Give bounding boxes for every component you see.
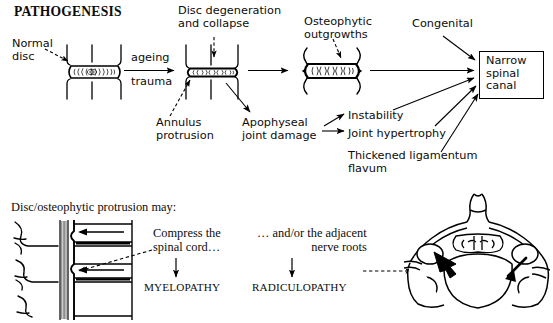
label-annulus-protrusion: Annulus protrusion (156, 117, 214, 142)
pathogenesis-figure: PATHOGENESIS (0, 0, 553, 323)
label-nerve-roots: … and/or the adjacent nerve roots (257, 227, 367, 255)
label-disc-degeneration: Disc degeneration and collapse (178, 5, 281, 30)
label-narrow-spinal-canal: Narrow spinal canal (486, 55, 526, 93)
axial-cervical-vertebra-illustration (404, 192, 550, 323)
label-thickened-ligamentum-flavum: Thickened ligamentum flavum (348, 150, 477, 175)
label-ageing: ageing (131, 52, 170, 65)
degenerate-disc-illustration (180, 44, 246, 100)
label-normal-disc: Normal disc (12, 38, 53, 63)
lower-heading: Disc/osteophytic protrusion may: (11, 201, 176, 215)
label-apophyseal-joint-damage: Apophyseal joint damage (242, 117, 317, 142)
label-myelopathy: MYELOPATHY (144, 281, 220, 294)
label-trauma: trauma (131, 76, 172, 89)
osteophytic-disc-illustration (292, 42, 372, 102)
label-osteophytic-outgrowths: Osteophytic outgrowths (304, 16, 372, 41)
label-radiculopathy: RADICULOPATHY (252, 281, 347, 294)
sagittal-spine-illustration (12, 220, 140, 320)
label-instability: Instability (348, 110, 403, 123)
normal-disc-illustration (62, 44, 128, 100)
label-congenital: Congenital (412, 18, 473, 31)
label-compress-spinal-cord: Compress the spinal cord… (153, 227, 221, 255)
label-joint-hypertrophy: Joint hypertrophy (348, 128, 446, 141)
